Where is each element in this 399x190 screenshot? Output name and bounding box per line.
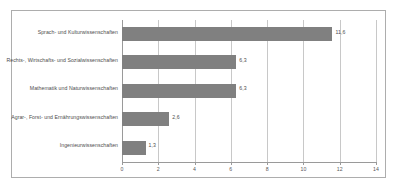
x-tick-label: 2 [146,166,170,173]
tick-mark-8 [267,162,268,165]
category-label: Agrar-, Forst- und Ernährungswissenschaf… [11,114,118,121]
x-tick-label: 8 [255,166,279,173]
x-tick-label: 10 [291,166,315,173]
x-tick-label: 12 [328,166,352,173]
bar-value-label: 6,3 [239,57,247,64]
bar [122,112,169,126]
category-label: Sprach- und Kulturwissenschaften [38,29,118,36]
bar-row: Ingenieurwissenschaften1,3 [122,134,376,162]
bar [122,55,236,69]
category-label: Mathematik und Naturwissenschaften [30,85,118,92]
tick-mark-12 [340,162,341,165]
bar-row: Sprach- und Kulturwissenschaften11,6 [122,20,376,48]
tick-mark-2 [158,162,159,165]
chart-figure: 02468101214 Sprach- und Kulturwissenscha… [0,0,399,190]
x-tick-label: 6 [219,166,243,173]
bar-row: Rechts-, Wirtschafts- und Sozialwissensc… [122,48,376,76]
tick-mark-6 [231,162,232,165]
plot-area: Sprach- und Kulturwissenschaften11,6Rech… [122,20,376,162]
bar-value-label: 1,3 [149,142,157,149]
x-tick-label: 0 [110,166,134,173]
bar [122,27,332,41]
category-label: Rechts-, Wirtschafts- und Sozialwissensc… [6,57,118,64]
bar [122,84,236,98]
bar [122,141,146,155]
tick-mark-14 [376,162,377,165]
category-label: Ingenieurwissenschaften [60,142,118,149]
bar-value-label: 2,6 [172,114,180,121]
x-tick-label: 4 [183,166,207,173]
bar-row: Mathematik und Naturwissenschaften6,3 [122,77,376,105]
bar-row: Agrar-, Forst- und Ernährungswissenschaf… [122,105,376,133]
tick-mark-0 [122,162,123,165]
tick-mark-10 [303,162,304,165]
bar-value-label: 6,3 [239,85,247,92]
x-axis-line [122,162,376,163]
gridline-14 [376,20,377,162]
bar-value-label: 11,6 [335,29,345,36]
x-tick-label: 14 [364,166,388,173]
tick-mark-4 [195,162,196,165]
